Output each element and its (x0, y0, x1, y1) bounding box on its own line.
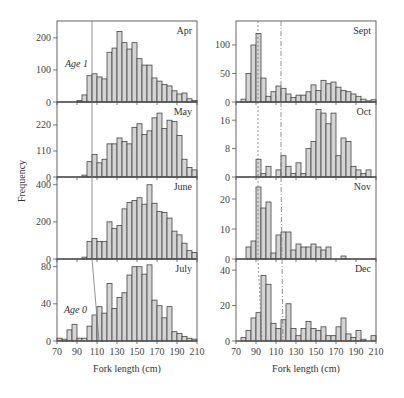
x-axis-label: Fork length (cm) (272, 363, 340, 375)
histogram-bar (306, 92, 311, 102)
y-tick-label: 110 (36, 145, 51, 156)
histogram-bar (167, 86, 172, 102)
histogram-bar (241, 337, 246, 341)
histogram-bar (177, 334, 182, 341)
histogram-figure: 0100200AprAge 10110220May0200400June0408… (0, 0, 404, 398)
histogram-bar (142, 274, 147, 341)
histogram-bar (316, 91, 321, 102)
histogram-bar (281, 88, 286, 102)
histogram-bar (182, 93, 187, 102)
y-tick-label: 100 (215, 39, 230, 50)
histogram-bar (127, 49, 132, 102)
panel-may: 0110220May (36, 102, 197, 183)
histogram-bar (276, 170, 281, 177)
histogram-bar (102, 241, 107, 259)
x-tick-label: 90 (251, 346, 261, 357)
histogram-bar (162, 318, 167, 341)
histogram-bar (296, 336, 301, 341)
histogram-bar (162, 213, 167, 259)
histogram-bar (192, 170, 197, 177)
histogram-bar (331, 82, 336, 102)
month-label: July (175, 263, 192, 274)
histogram-bar (296, 163, 301, 177)
histogram-bar (251, 45, 256, 102)
histogram-bar (182, 243, 187, 259)
histogram-bar (102, 79, 107, 102)
histogram-bar (311, 85, 316, 102)
histogram-bar (97, 163, 102, 177)
y-tick-label: 40 (41, 298, 51, 309)
histogram-bar (336, 327, 341, 341)
histogram-bar (137, 267, 142, 341)
x-tick-label: 110 (269, 346, 284, 357)
histogram-bar (67, 330, 72, 341)
histogram-bar (371, 336, 376, 341)
histogram-bar (167, 307, 172, 341)
histogram-bar (177, 136, 182, 177)
histogram-bar (336, 87, 341, 102)
histogram-bar (361, 173, 366, 177)
histogram-bar (167, 120, 172, 177)
histogram-bar (112, 309, 117, 342)
histogram-bar (356, 96, 361, 102)
histogram-bar (107, 222, 112, 259)
y-tick-label: 0 (225, 97, 230, 108)
histogram-bar (177, 94, 182, 102)
histogram-bar (162, 128, 167, 177)
histogram-bar (142, 65, 147, 102)
histogram-bar (112, 144, 117, 177)
histogram-bar (92, 74, 97, 102)
histogram-bar (162, 84, 167, 102)
y-tick-label: 16 (220, 115, 230, 126)
histogram-bar (122, 293, 127, 341)
histogram-bar (107, 144, 112, 177)
histogram-bar (97, 77, 102, 102)
histogram-bar (172, 332, 177, 341)
histogram-bar (271, 323, 276, 341)
histogram-bar (246, 247, 251, 259)
histogram-bar (291, 329, 296, 341)
histogram-bar (251, 241, 256, 259)
histogram-bar (172, 91, 177, 102)
histogram-bar (142, 204, 147, 259)
histogram-bar (346, 334, 351, 341)
histogram-bar (122, 142, 127, 178)
histogram-bar (256, 159, 261, 177)
histogram-bar (87, 162, 92, 177)
histogram-bar (117, 138, 122, 177)
histogram-bar (311, 142, 316, 178)
histogram-bar (326, 124, 331, 177)
histogram-bar (306, 322, 311, 342)
x-tick-label: 170 (150, 346, 165, 357)
histogram-bar (301, 173, 306, 177)
histogram-bar (276, 235, 281, 259)
histogram-bar (261, 208, 266, 259)
y-tick-label: 400 (36, 179, 51, 190)
histogram-bar (157, 212, 162, 259)
y-tick-label: 8 (225, 143, 230, 154)
histogram-bar (256, 313, 261, 341)
histogram-bar (182, 159, 187, 177)
histogram-bar (152, 78, 157, 102)
histogram-bar (107, 283, 112, 341)
histogram-bar (72, 324, 77, 341)
month-label: June (174, 181, 193, 192)
histogram-bar (286, 94, 291, 102)
panel-nov: 01020Nov (220, 177, 376, 265)
histogram-bar (346, 92, 351, 102)
histogram-bar (177, 235, 182, 259)
histogram-bar (311, 329, 316, 341)
histogram-bar (291, 250, 296, 259)
histogram-bar (112, 228, 117, 259)
histogram-bar (316, 330, 321, 341)
histogram-bar (127, 202, 132, 259)
histogram-bar (341, 318, 346, 341)
y-tick-label: 20 (220, 300, 230, 311)
x-tick-label: 210 (369, 346, 384, 357)
age-annotation: Age 0 (63, 304, 87, 315)
histogram-bar (331, 113, 336, 177)
panel-dec: 02040Dec (220, 259, 376, 347)
y-axis-label: Frequency (16, 160, 27, 202)
y-tick-label: 80 (41, 261, 51, 272)
y-tick-label: 0 (225, 336, 230, 347)
